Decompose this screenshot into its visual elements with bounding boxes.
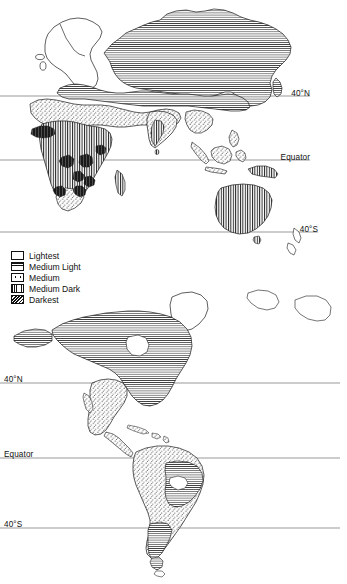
legend-swatch-darkest-icon	[11, 295, 24, 304]
lat-label-40n-bottom: 40°N	[4, 376, 23, 384]
region-europe-lightest	[45, 18, 102, 90]
region-europe-edge	[247, 290, 279, 310]
region-hispaniola	[152, 433, 161, 439]
legend-swatch-medium-icon	[11, 273, 24, 282]
legend-item-medium-dark: Medium Dark	[11, 283, 131, 294]
region-borneo	[211, 146, 232, 164]
legend-label-medium-dark: Medium Dark	[29, 284, 80, 294]
legend-swatch-medium-light-icon	[11, 262, 24, 271]
region-new-guinea	[248, 166, 278, 178]
lat-label-40n-top: 40°N	[246, 90, 310, 98]
region-java	[205, 167, 227, 174]
region-tasmania	[253, 236, 261, 244]
region-west-africa-edge	[295, 296, 331, 321]
region-central-america	[104, 432, 133, 457]
region-mexico-western-us	[88, 379, 127, 435]
region-darkest-west-africa	[31, 126, 55, 138]
legend-label-medium: Medium	[29, 273, 60, 283]
legend-item-medium-light: Medium Light	[11, 261, 131, 272]
eastern-hemisphere-map	[0, 9, 318, 255]
lat-label-40s-bottom: 40°S	[4, 521, 22, 529]
world-skin-color-map-figure: 40°N Equator 40°S 40°N Equator 40°S Ligh…	[0, 0, 347, 584]
region-sri-lanka	[155, 149, 159, 154]
region-philippines	[229, 130, 239, 147]
lat-label-equator-top: Equator	[236, 154, 310, 162]
region-new-zealand-south	[287, 243, 296, 255]
western-hemisphere-map	[0, 290, 340, 577]
legend-swatch-lightest-icon	[11, 251, 24, 260]
lat-label-40s-top: 40°S	[254, 226, 318, 234]
region-southeast-asia	[185, 110, 213, 133]
legend-item-darkest: Darkest	[11, 294, 131, 305]
region-tierra-del-fuego	[154, 571, 165, 577]
legend-label-darkest: Darkest	[29, 295, 59, 305]
legend-label-medium-light: Medium Light	[29, 262, 81, 272]
legend-item-medium: Medium	[11, 272, 131, 283]
region-southern-cone	[148, 522, 172, 559]
legend-label-lightest: Lightest	[29, 251, 59, 261]
region-cuba	[127, 425, 149, 434]
region-caribbean-islands	[127, 425, 169, 443]
region-madagascar	[115, 170, 125, 196]
region-iceland	[36, 54, 45, 59]
legend-swatch-medium-dark-icon	[11, 284, 24, 293]
region-sumatra	[191, 142, 209, 164]
region-lesser-antilles	[163, 436, 169, 443]
legend-item-lightest: Lightest	[11, 250, 131, 261]
region-alaska	[14, 329, 52, 347]
region-britain	[40, 62, 46, 70]
lat-label-equator-bottom: Equator	[4, 451, 33, 459]
map-legend: Lightest Medium Light Medium Medium Dark…	[11, 250, 131, 305]
region-patagonia	[150, 557, 163, 570]
